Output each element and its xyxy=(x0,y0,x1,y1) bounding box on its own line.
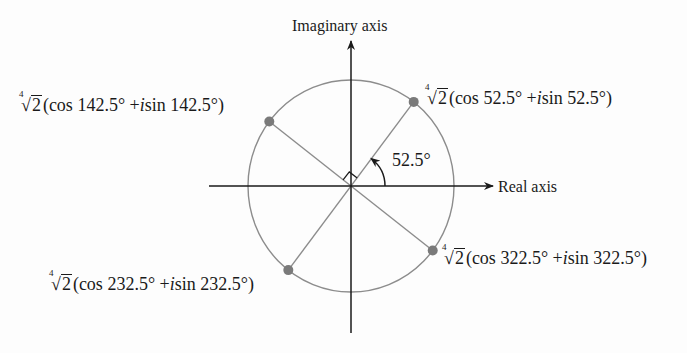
sin-term: sin 232.5°) xyxy=(175,274,254,294)
fourth-root-symbol: 4 √2 xyxy=(18,95,42,115)
cos-term: (cos 52.5° + xyxy=(449,88,537,108)
imaginary-axis-label: Imaginary axis xyxy=(292,16,388,36)
root-label-322-5: 4 √2 (cos 322.5° + i sin 322.5°) xyxy=(441,248,647,268)
root-point-142-5 xyxy=(264,117,274,127)
cos-term: (cos 232.5° + xyxy=(73,274,170,294)
root-label-142-5: 4 √2 (cos 142.5° + i sin 142.5°) xyxy=(18,95,224,115)
root-label-52-5: 4 √2 (cos 52.5° + i sin 52.5°) xyxy=(424,88,612,108)
right-angle-marker xyxy=(343,172,357,180)
real-axis-label: Real axis xyxy=(498,177,557,197)
complex-roots-diagram: Imaginary axis Real axis 52.5° 4 √2 (cos… xyxy=(0,0,687,353)
radicand: 2 xyxy=(437,88,448,107)
radical-index: 4 xyxy=(19,90,24,99)
cos-term: (cos 142.5° + xyxy=(43,95,140,115)
angle-arc xyxy=(372,159,385,186)
angle-label: 52.5° xyxy=(392,150,431,170)
root-label-232-5: 4 √2 (cos 232.5° + i sin 232.5°) xyxy=(48,274,254,294)
root-point-322-5 xyxy=(428,246,438,256)
radical-index: 4 xyxy=(425,83,430,92)
radicand: 2 xyxy=(454,248,465,267)
fourth-root-symbol: 4 √2 xyxy=(424,88,448,108)
fourth-root-symbol: 4 √2 xyxy=(441,248,465,268)
radicand: 2 xyxy=(31,95,42,114)
fourth-root-symbol: 4 √2 xyxy=(48,274,72,294)
radicand: 2 xyxy=(61,274,72,293)
root-point-232-5 xyxy=(283,265,293,275)
root-point-52-5 xyxy=(409,97,419,107)
cos-term: (cos 322.5° + xyxy=(466,248,563,268)
radical-index: 4 xyxy=(49,269,54,278)
sin-term: sin 322.5°) xyxy=(568,248,647,268)
sin-term: sin 52.5°) xyxy=(542,88,612,108)
sin-term: sin 142.5°) xyxy=(145,95,224,115)
radical-index: 4 xyxy=(442,243,447,252)
diagram-canvas xyxy=(0,0,687,353)
